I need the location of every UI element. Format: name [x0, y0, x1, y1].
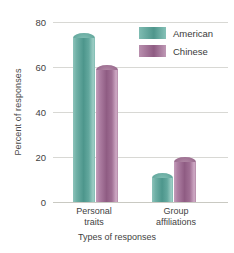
bar-body [174, 162, 196, 202]
gridline-0-baseline: 0 [53, 202, 228, 203]
y-axis-title: Percent of responses [13, 42, 23, 182]
y-tick-label-40: 40 [35, 107, 46, 118]
bar-group-affiliations-american [152, 173, 173, 202]
legend-swatch-american [139, 27, 166, 39]
bar-body [152, 178, 173, 202]
bar-body [73, 38, 95, 202]
y-tick-label-0: 0 [41, 197, 46, 208]
legend-item-chinese: Chinese [139, 43, 213, 59]
y-tick-label-20: 20 [35, 152, 46, 163]
x-group-label-line1: Personal [54, 206, 134, 217]
legend-label-chinese: Chinese [173, 46, 208, 57]
x-group-label-line1: Group [132, 206, 220, 217]
bar-personal-traits-american [73, 33, 95, 202]
x-axis-title: Types of responses [0, 232, 234, 242]
bar-body [96, 70, 118, 202]
x-group-label-group-affiliations: Group affiliations [132, 206, 220, 228]
x-group-label-line2: affiliations [132, 217, 220, 228]
x-group-label-personal-traits: Personal traits [54, 206, 134, 228]
bar-chart: Percent of responses 80 60 40 20 0 [0, 0, 234, 253]
legend-label-american: American [173, 28, 213, 39]
bar-group-affiliations-chinese [174, 157, 196, 202]
bar-personal-traits-chinese [96, 65, 118, 202]
y-tick-label-80: 80 [35, 17, 46, 28]
legend-item-american: American [139, 25, 213, 41]
legend: American Chinese [139, 25, 213, 61]
y-tick-label-60: 60 [35, 62, 46, 73]
x-group-label-line2: traits [54, 217, 134, 228]
legend-swatch-chinese [139, 45, 166, 57]
gridline-80: 80 [53, 22, 228, 23]
